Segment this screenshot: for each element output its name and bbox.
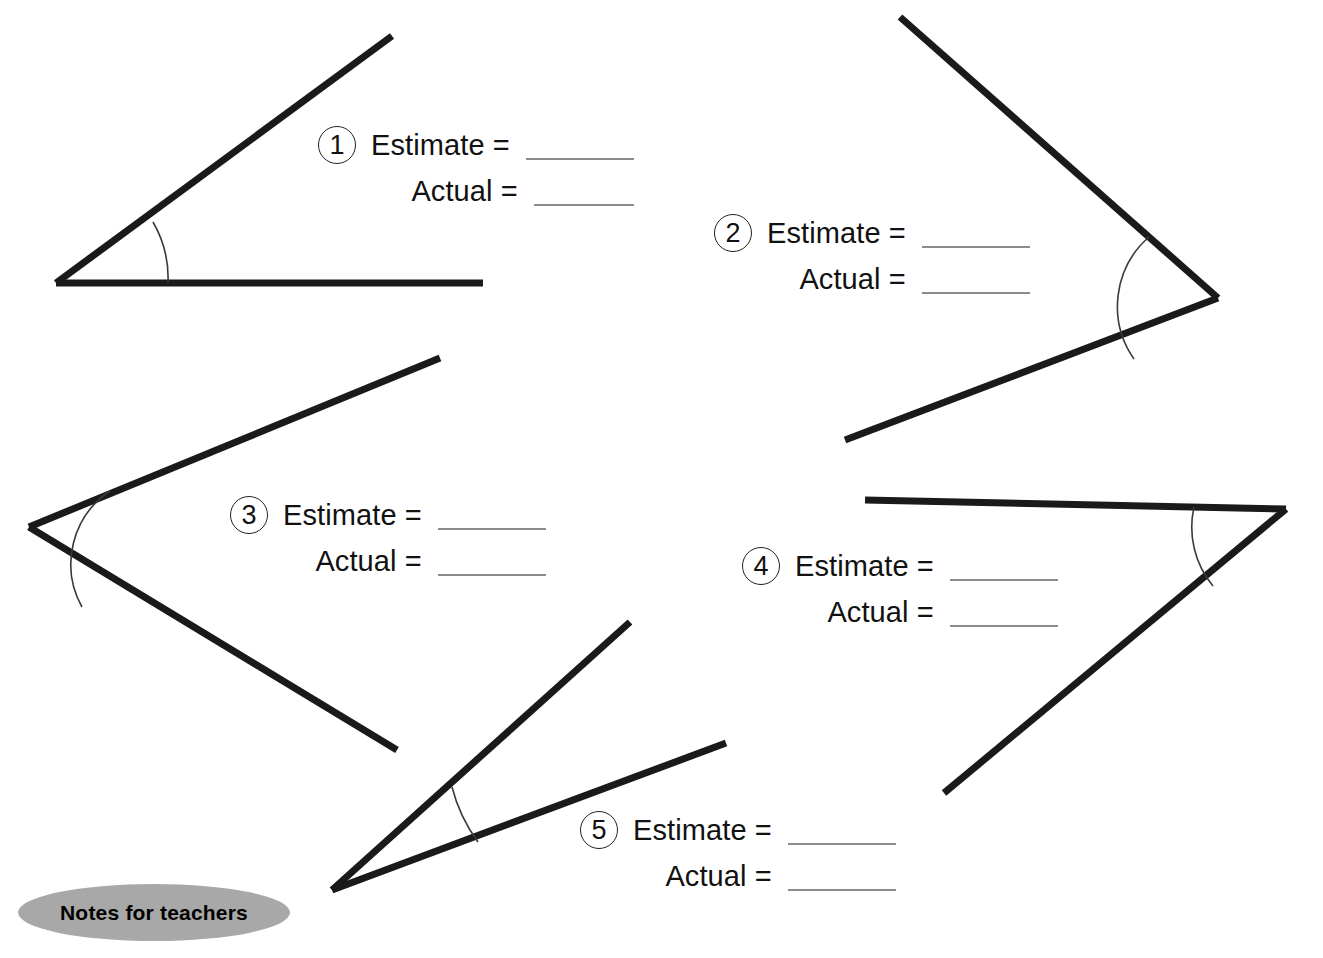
question-2-actual-row: Actual = xyxy=(714,256,1030,302)
actual-blank-1[interactable] xyxy=(534,203,634,206)
worksheet-page: 1 Estimate = Actual = 2 Estimate = Actua… xyxy=(0,0,1323,958)
question-2-estimate-row: 2 Estimate = xyxy=(714,210,1030,256)
actual-blank-4[interactable] xyxy=(950,624,1058,627)
question-1-estimate-row: 1 Estimate = xyxy=(318,122,634,168)
estimate-blank-2[interactable] xyxy=(922,245,1030,248)
estimate-blank-3[interactable] xyxy=(438,527,546,530)
question-block-1: 1 Estimate = Actual = xyxy=(318,122,634,214)
angle-1-arc xyxy=(153,222,168,283)
actual-label-1: Actual = xyxy=(411,175,517,208)
question-number-1: 1 xyxy=(318,126,356,164)
question-4-actual-row: Actual = xyxy=(742,589,1058,635)
actual-label-4: Actual = xyxy=(827,596,933,629)
question-block-4: 4 Estimate = Actual = xyxy=(742,543,1058,635)
question-5-estimate-row: 5 Estimate = xyxy=(580,807,896,853)
question-3-actual-row: Actual = xyxy=(230,538,546,584)
estimate-label-3: Estimate = xyxy=(283,499,422,532)
actual-label-2: Actual = xyxy=(799,263,905,296)
actual-blank-5[interactable] xyxy=(788,888,896,891)
question-block-3: 3 Estimate = Actual = xyxy=(230,492,546,584)
estimate-blank-1[interactable] xyxy=(526,157,634,160)
estimate-label-5: Estimate = xyxy=(633,814,772,847)
question-4-estimate-row: 4 Estimate = xyxy=(742,543,1058,589)
question-number-2: 2 xyxy=(714,214,752,252)
question-number-3: 3 xyxy=(230,496,268,534)
angle-2-ray-b xyxy=(845,298,1218,440)
estimate-label-2: Estimate = xyxy=(767,217,906,250)
estimate-label-1: Estimate = xyxy=(371,129,510,162)
estimate-blank-5[interactable] xyxy=(788,842,896,845)
estimate-label-4: Estimate = xyxy=(795,550,934,583)
actual-blank-2[interactable] xyxy=(922,291,1030,294)
angle-4-ray-a xyxy=(865,500,1286,509)
angle-2-arc xyxy=(1117,237,1149,359)
actual-label-5: Actual = xyxy=(665,860,771,893)
actual-label-3: Actual = xyxy=(315,545,421,578)
question-3-estimate-row: 3 Estimate = xyxy=(230,492,546,538)
question-5-actual-row: Actual = xyxy=(580,853,896,899)
estimate-blank-4[interactable] xyxy=(950,578,1058,581)
question-1-actual-row: Actual = xyxy=(318,168,634,214)
notes-for-teachers-badge[interactable]: Notes for teachers xyxy=(18,884,290,941)
question-block-2: 2 Estimate = Actual = xyxy=(714,210,1030,302)
question-number-4: 4 xyxy=(742,547,780,585)
question-block-5: 5 Estimate = Actual = xyxy=(580,807,896,899)
question-number-5: 5 xyxy=(580,811,618,849)
actual-blank-3[interactable] xyxy=(438,573,546,576)
